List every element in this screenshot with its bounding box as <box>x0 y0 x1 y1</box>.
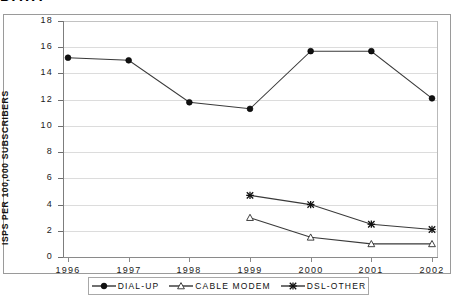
series-line-dsl-other <box>250 195 432 229</box>
data-point-filled-circle <box>308 48 314 54</box>
data-point-filled-circle <box>126 57 132 63</box>
data-point-open-triangle <box>247 214 254 220</box>
data-point-filled-circle <box>65 55 71 61</box>
data-series-layer <box>0 0 455 297</box>
legend-label: DSL-OTHER <box>307 281 366 291</box>
legend-item[interactable]: CABLE MODEM <box>168 280 270 292</box>
legend-label: DIAL-UP <box>118 281 160 291</box>
chart-legend: DIAL-UPCABLE MODEMDSL-OTHER <box>88 277 369 295</box>
legend-marker-filled-circle <box>91 280 117 292</box>
legend-label: CABLE MODEM <box>195 281 270 291</box>
chart-screenshot: DATA ISPS PER 100,000 SUBSCRIBERS 181614… <box>0 0 455 297</box>
data-point-cross-star <box>368 221 376 228</box>
legend-marker-open-triangle <box>168 280 194 292</box>
legend-item[interactable]: DSL-OTHER <box>280 280 366 292</box>
data-point-filled-circle <box>247 106 253 112</box>
data-point-filled-circle <box>368 48 374 54</box>
series-line-dial-up <box>68 51 432 109</box>
data-point-cross-star <box>307 201 315 208</box>
data-point-cross-star <box>246 192 254 199</box>
series-line-cable-modem <box>250 218 432 244</box>
legend-item[interactable]: DIAL-UP <box>91 280 160 292</box>
data-point-filled-circle <box>186 99 192 105</box>
data-point-cross-star <box>289 282 297 289</box>
data-point-filled-circle <box>429 95 435 101</box>
data-point-filled-circle <box>101 283 107 289</box>
data-point-cross-star <box>428 226 436 233</box>
legend-marker-cross-star <box>280 280 306 292</box>
